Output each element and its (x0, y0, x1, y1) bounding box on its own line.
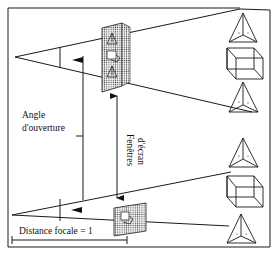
opening-angle-label: Angle d'ouverture (22, 110, 83, 136)
lower-screen-window (114, 203, 146, 236)
lower-angle-flag-icon (71, 207, 82, 213)
svg-text:d'écran: d'écran (136, 138, 146, 165)
upper-tetrahedron-top (229, 13, 257, 42)
screen-windows-label: Fenêtres d'écran (125, 134, 146, 166)
svg-text:d'ouverture: d'ouverture (22, 123, 65, 133)
svg-text:Angle: Angle (22, 110, 45, 120)
upper-frustum (15, 9, 252, 200)
lower-cube (227, 176, 263, 207)
lower-tetrahedron-top (229, 138, 258, 167)
svg-text:Distance focale = 1: Distance focale = 1 (19, 226, 93, 236)
upper-angle-flag-icon (72, 56, 83, 200)
focal-distance-dimension: Distance focale = 1 (12, 226, 127, 244)
svg-text:Fenêtres: Fenêtres (125, 134, 135, 166)
frustum-diagram: Angle d'ouverture Fenêtres d'écran Dista… (0, 0, 278, 255)
lower-tetrahedron-bottom (227, 214, 256, 243)
upper-screen-window (102, 23, 130, 92)
upper-cube (227, 48, 263, 79)
